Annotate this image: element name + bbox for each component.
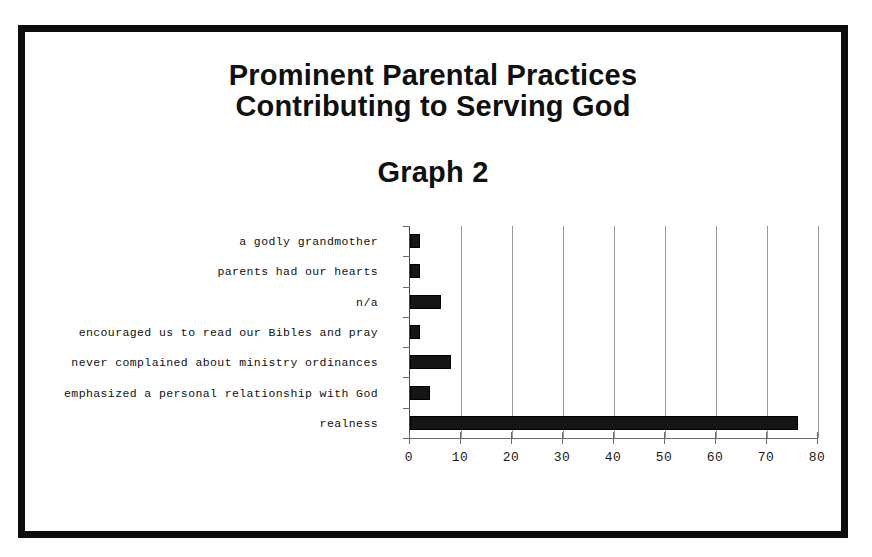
x-tick-70 <box>766 432 767 444</box>
bar <box>410 355 451 369</box>
bar-category-label: never complained about ministry ordinanc… <box>71 356 385 369</box>
x-tick-label-80: 80 <box>797 450 837 465</box>
slide-canvas: Prominent Parental Practices Contributin… <box>25 32 841 531</box>
bar-row: realness <box>25 408 817 438</box>
slide-subtitle: Graph 2 <box>25 156 841 189</box>
x-tick-20 <box>511 432 512 444</box>
bar-track <box>410 355 451 369</box>
bar-category-label: encouraged us to read our Bibles and pra… <box>79 325 385 338</box>
x-tick-40 <box>613 432 614 444</box>
x-tick-60 <box>715 432 716 444</box>
x-tick-50 <box>664 432 665 444</box>
gridline-80 <box>818 226 819 438</box>
bar-track <box>410 325 420 339</box>
title-line-2: Contributing to Serving God <box>25 91 841 122</box>
bar <box>410 386 430 400</box>
bar-track <box>410 234 420 248</box>
x-tick-10 <box>460 432 461 444</box>
bar <box>410 264 420 278</box>
x-tick-label-10: 10 <box>440 450 480 465</box>
subtitle-text: Graph 2 <box>378 156 489 188</box>
bar-category-label: n/a <box>356 295 385 308</box>
x-tick-30 <box>562 432 563 444</box>
scanned-page: Prominent Parental Practices Contributin… <box>0 0 872 557</box>
bar-track <box>410 264 420 278</box>
bar-row: never complained about ministry ordinanc… <box>25 347 817 377</box>
bar-track <box>410 386 430 400</box>
bar-category-label: parents had our hearts <box>217 265 385 278</box>
x-tick-label-0: 0 <box>389 450 429 465</box>
bar-track <box>410 295 441 309</box>
bar-category-label: emphasized a personal relationship with … <box>64 386 385 399</box>
x-tick-label-30: 30 <box>542 450 582 465</box>
bar-row: parents had our hearts <box>25 256 817 286</box>
bar-category-label: a godly grandmother <box>239 235 385 248</box>
x-tick-label-20: 20 <box>491 450 531 465</box>
bar-chart: a godly grandmotherparents had our heart… <box>25 218 841 508</box>
x-tick-0 <box>409 432 410 444</box>
x-tick-label-50: 50 <box>644 450 684 465</box>
slide-frame-border: Prominent Parental Practices Contributin… <box>18 25 848 538</box>
title-line-1: Prominent Parental Practices <box>25 60 841 91</box>
bar-track <box>410 416 798 430</box>
bar-row: emphasized a personal relationship with … <box>25 377 817 407</box>
bar <box>410 234 420 248</box>
x-tick-label-70: 70 <box>746 450 786 465</box>
bar <box>410 295 441 309</box>
bar-row: a godly grandmother <box>25 226 817 256</box>
x-tick-label-40: 40 <box>593 450 633 465</box>
bar <box>410 416 798 430</box>
x-tick-label-60: 60 <box>695 450 735 465</box>
slide-title: Prominent Parental Practices Contributin… <box>25 60 841 123</box>
bar-row: n/a <box>25 287 817 317</box>
bar <box>410 325 420 339</box>
bar-row: encouraged us to read our Bibles and pra… <box>25 317 817 347</box>
x-tick-80 <box>817 432 818 444</box>
bar-category-label: realness <box>320 416 385 429</box>
